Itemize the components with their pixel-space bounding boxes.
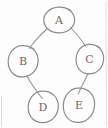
node-c[interactable]: C [76, 44, 104, 73]
node-a[interactable]: A [44, 7, 75, 33]
node-b-label: B [19, 55, 27, 68]
edge-b-d [27, 76, 42, 98]
node-b[interactable]: B [8, 46, 38, 77]
graph-sketch: A B C D E [0, 0, 108, 128]
node-d-label: D [39, 101, 48, 114]
sketch-canvas: A B C D E [0, 0, 108, 128]
node-e-label: E [75, 99, 83, 112]
node-d[interactable]: D [28, 91, 58, 123]
edge-c-e [78, 74, 88, 95]
node-a-label: A [54, 14, 64, 27]
edge-a-c [71, 28, 86, 47]
node-c-label: C [85, 53, 93, 66]
edge-a-b [30, 29, 48, 49]
